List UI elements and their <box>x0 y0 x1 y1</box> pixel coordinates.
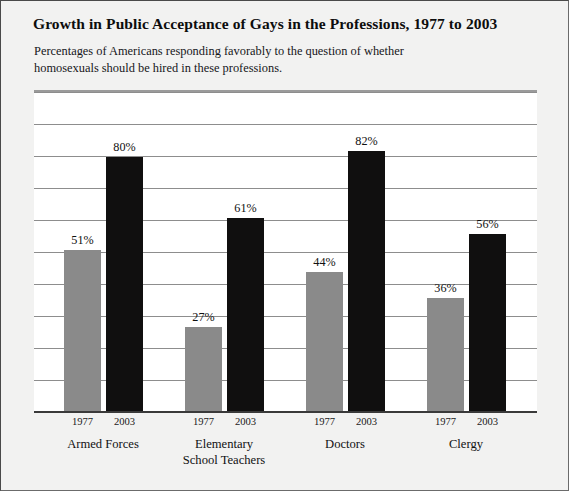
bar-value-label: 36% <box>434 281 456 296</box>
category-label: Clergy <box>386 436 546 452</box>
bar-2003-clergy: 56% <box>469 234 506 413</box>
chart-figure: Growth in Public Acceptance of Gays in t… <box>0 0 569 491</box>
plot-frame: 51%80%27%61%44%82%36%56% <box>34 90 537 414</box>
plot-area: 51%80%27%61%44%82%36%56% <box>34 92 537 413</box>
bar-value-label: 80% <box>113 140 135 155</box>
bar-1977-clergy: 36% <box>427 298 464 413</box>
tick-label-2003: 2003 <box>106 416 143 427</box>
bar-2003-armed-forces: 80% <box>106 157 143 413</box>
bar-1977-doctors: 44% <box>306 272 343 413</box>
bar-group: 51%80% <box>64 92 143 413</box>
bar-group: 36%56% <box>427 92 506 413</box>
x-axis-line <box>34 411 537 413</box>
bar-value-label: 44% <box>313 255 335 270</box>
bar-1977-elementary-school-teachers: 27% <box>185 327 222 413</box>
bars-layer: 51%80%27%61%44%82%36%56% <box>34 92 537 413</box>
chart-subtitle: Percentages of Americans responding favo… <box>34 43 464 77</box>
tick-label-2003: 2003 <box>227 416 264 427</box>
chart-header: Growth in Public Acceptance of Gays in t… <box>1 1 568 77</box>
bar-group: 27%61% <box>185 92 264 413</box>
tick-label-1977: 1977 <box>64 416 101 427</box>
bar-2003-elementary-school-teachers: 61% <box>227 218 264 413</box>
bar-value-label: 27% <box>192 310 214 325</box>
page-title: Growth in Public Acceptance of Gays in t… <box>33 15 542 34</box>
tick-label-1977: 1977 <box>185 416 222 427</box>
tick-label-2003: 2003 <box>348 416 385 427</box>
bar-value-label: 82% <box>355 134 377 149</box>
bar-value-label: 51% <box>71 233 93 248</box>
bar-value-label: 56% <box>476 217 498 232</box>
tick-label-1977: 1977 <box>427 416 464 427</box>
tick-label-1977: 1977 <box>306 416 343 427</box>
bar-group: 44%82% <box>306 92 385 413</box>
tick-label-2003: 2003 <box>469 416 506 427</box>
bar-2003-doctors: 82% <box>348 151 385 413</box>
bar-1977-armed-forces: 51% <box>64 250 101 413</box>
bar-value-label: 61% <box>234 201 256 216</box>
category-label-line2: School Teachers <box>183 453 265 467</box>
x-axis-labels: 19772003Armed Forces19772003ElementarySc… <box>34 416 537 486</box>
